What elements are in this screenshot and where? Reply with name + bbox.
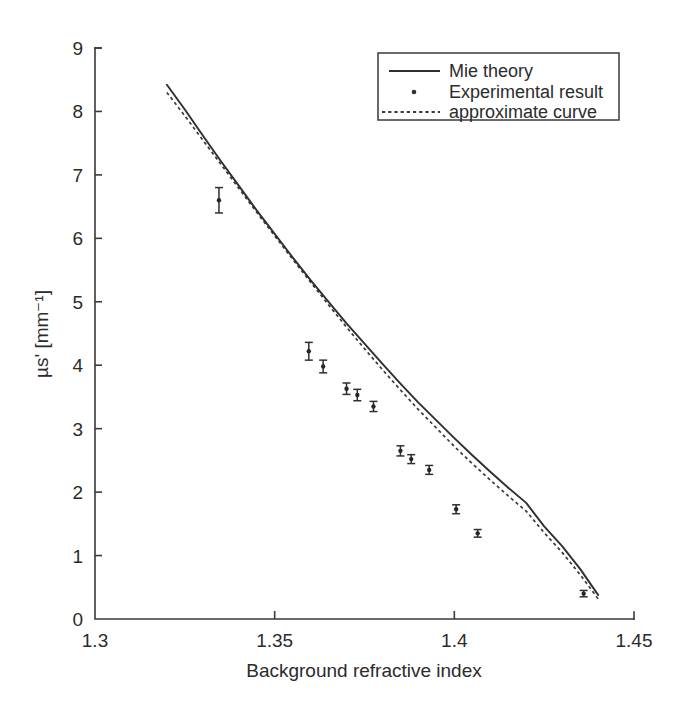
chart-svg: 0123456789 1.31.351.41.45 Background ref… <box>0 0 681 713</box>
x-tick-label: 1.3 <box>82 630 108 651</box>
legend-label-mie-theory: Mie theory <box>449 61 533 81</box>
figure-container: 0123456789 1.31.351.41.45 Background ref… <box>0 0 681 713</box>
data-point-marker <box>475 531 479 535</box>
legend-label-approximate-curve: approximate curve <box>449 102 597 122</box>
y-tick-label: 9 <box>72 38 83 59</box>
x-tick-label: 1.45 <box>616 630 653 651</box>
data-point-marker <box>454 507 458 511</box>
data-point-marker <box>581 591 585 595</box>
data-point-marker <box>371 404 375 408</box>
y-tick-label: 1 <box>72 546 83 567</box>
y-tick-label: 5 <box>72 292 83 313</box>
data-point-marker <box>355 393 359 397</box>
legend: Mie theory Experimental result approxima… <box>378 53 619 122</box>
x-tick-label: 1.35 <box>256 630 293 651</box>
y-tick-label: 4 <box>72 355 83 376</box>
y-axis-title: µs' [mm⁻¹] <box>31 290 52 378</box>
data-point-marker <box>217 198 221 202</box>
y-tick-label: 0 <box>72 609 83 630</box>
data-point-marker <box>307 349 311 353</box>
data-point-marker <box>398 449 402 453</box>
legend-label-experimental-result: Experimental result <box>449 82 603 102</box>
x-tick-label: 1.4 <box>441 630 468 651</box>
legend-marker-experimental-result <box>412 90 417 95</box>
data-point-marker <box>427 468 431 472</box>
y-tick-label: 8 <box>72 101 83 122</box>
data-point-marker <box>321 364 325 368</box>
y-tick-label: 2 <box>72 482 83 503</box>
y-tick-label: 6 <box>72 228 83 249</box>
data-point-marker <box>344 386 348 390</box>
y-tick-label: 7 <box>72 165 83 186</box>
data-point-marker <box>409 457 413 461</box>
y-tick-label: 3 <box>72 419 83 440</box>
x-axis-title: Background refractive index <box>246 660 482 681</box>
